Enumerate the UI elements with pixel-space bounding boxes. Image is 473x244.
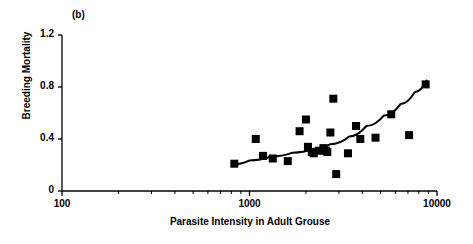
data-point	[422, 80, 430, 88]
data-point	[344, 149, 352, 157]
x-tick-label: 1000	[225, 198, 275, 209]
axis-layer	[58, 35, 437, 196]
data-point	[356, 135, 364, 143]
x-tick-label: 10000	[412, 198, 462, 209]
y-tick-label: 0.8	[18, 80, 54, 91]
data-point	[323, 148, 331, 156]
chart-figure: (b) Breeding Mortality Parasite Intensit…	[0, 0, 473, 244]
data-point	[269, 155, 277, 163]
data-point	[326, 129, 334, 137]
data-point	[259, 152, 267, 160]
data-point	[252, 135, 260, 143]
y-tick-label: 1.2	[18, 28, 54, 39]
x-tick-label: 100	[37, 198, 87, 209]
data-point	[387, 110, 395, 118]
data-point	[302, 116, 310, 124]
y-tick-label: 0.4	[18, 132, 54, 143]
data-point	[372, 134, 380, 142]
data-point	[329, 95, 337, 103]
data-point	[352, 122, 360, 130]
data-point	[405, 131, 413, 139]
y-tick-label: 0	[18, 184, 54, 195]
data-point	[230, 160, 238, 168]
data-point	[284, 157, 292, 165]
x-axis-title: Parasite Intensity in Adult Grouse	[100, 216, 400, 227]
data-point	[332, 170, 340, 178]
data-points-layer	[230, 80, 429, 178]
data-point	[296, 127, 304, 135]
